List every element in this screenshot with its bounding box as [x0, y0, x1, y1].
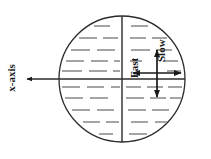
x-axis-label: x-axis	[5, 64, 17, 92]
fast-label: Fast	[128, 58, 140, 79]
slow-label: Slow	[155, 39, 167, 62]
figure-canvas: x-axis Fast Slow	[0, 0, 211, 159]
stratified-cylinder-diagram: x-axis Fast Slow	[0, 0, 211, 159]
